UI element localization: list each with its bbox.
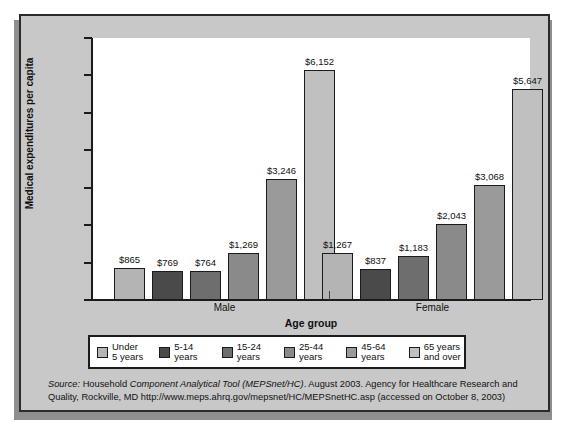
legend-item: 45-64years xyxy=(339,342,401,363)
bar-value-label: $3,068 xyxy=(475,171,504,182)
y-axis-tick xyxy=(84,37,92,39)
bar-value-label: $764 xyxy=(195,257,216,268)
x-axis-group-label: Female xyxy=(416,302,449,313)
source-note: Source: Household Component Analytical T… xyxy=(48,378,528,403)
y-axis-tick xyxy=(84,262,92,264)
legend-label-line2: years xyxy=(237,352,261,363)
legend-label: 25-44years xyxy=(299,342,323,363)
legend-label-line2: 5 years xyxy=(112,352,143,363)
legend-swatch xyxy=(159,347,170,358)
bar xyxy=(152,271,183,300)
bar xyxy=(360,269,391,300)
legend-label: 45-64years xyxy=(361,342,385,363)
bar xyxy=(228,253,259,300)
bar-value-label: $3,246 xyxy=(267,165,296,176)
legend-item: 25-44years xyxy=(277,342,339,363)
legend-label: Under5 years xyxy=(112,342,143,363)
legend-swatch xyxy=(97,347,108,358)
legend-label: 15-24years xyxy=(237,342,261,363)
legend-label: 65 yearsand over xyxy=(424,342,461,363)
bar xyxy=(322,253,353,300)
legend-swatch xyxy=(284,347,295,358)
bar-value-label: $5,647 xyxy=(513,75,542,86)
legend-swatch xyxy=(346,347,357,358)
legend-item: 5-14years xyxy=(152,342,214,363)
figure-root: $7,000$6,000$5,000$4,000$3,000$2,000$1,0… xyxy=(0,0,561,430)
legend-label-line2: years xyxy=(361,352,385,363)
legend-item: 15-24years xyxy=(215,342,277,363)
source-text-1: Household xyxy=(80,379,130,389)
bar xyxy=(398,256,429,300)
x-axis-mid-tick xyxy=(329,291,330,300)
y-axis-tick xyxy=(84,149,92,151)
legend: Under5 years5-14years15-24years25-44year… xyxy=(88,335,466,369)
bar-value-label: $1,269 xyxy=(229,239,258,250)
y-axis-tick xyxy=(84,187,92,189)
bar xyxy=(266,179,297,300)
y-axis-tick xyxy=(84,299,92,301)
legend-swatch xyxy=(409,347,420,358)
legend-label-line2: years xyxy=(299,352,323,363)
bar-value-label: $1,267 xyxy=(323,239,352,250)
legend-item: 65 yearsand over xyxy=(402,342,464,363)
legend-label-line2: and over xyxy=(424,352,461,363)
bar-value-label: $769 xyxy=(157,257,178,268)
legend-item: Under5 years xyxy=(90,342,152,363)
bar xyxy=(474,185,505,300)
bar-value-label: $865 xyxy=(119,254,140,265)
source-italic: Component Analytical Tool (MEPSnet/HC) xyxy=(130,379,304,389)
y-axis-tick-labels: $7,000$6,000$5,000$4,000$3,000$2,000$1,0… xyxy=(0,0,82,430)
bar xyxy=(436,224,467,300)
y-axis-tick xyxy=(84,74,92,76)
y-axis-title: Medical expenditures per capita xyxy=(24,39,35,229)
bar-value-label: $2,043 xyxy=(437,210,466,221)
legend-swatch xyxy=(222,347,233,358)
source-label: Source: xyxy=(48,379,80,389)
legend-label-line2: years xyxy=(174,352,197,363)
bar xyxy=(190,271,221,300)
bar-value-label: $1,183 xyxy=(399,242,428,253)
x-axis-group-label: Male xyxy=(214,302,236,313)
bar xyxy=(512,89,543,300)
bar xyxy=(114,268,145,300)
y-axis-tick xyxy=(84,112,92,114)
bar-value-label: $6,152 xyxy=(305,56,334,67)
y-axis-tick xyxy=(84,224,92,226)
x-axis-title: Age group xyxy=(92,317,530,329)
legend-label: 5-14years xyxy=(174,342,197,363)
bar-value-label: $837 xyxy=(365,255,386,266)
